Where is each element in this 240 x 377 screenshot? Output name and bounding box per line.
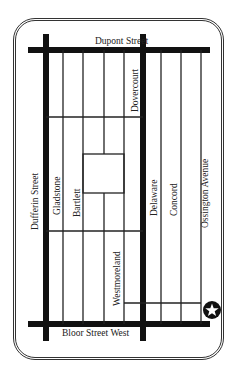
- label-dovercourt: Dovercourt: [131, 69, 141, 112]
- road-dufferin: [43, 34, 49, 341]
- label-dupont: Dupont Street: [95, 37, 148, 47]
- road-dupont: [28, 47, 210, 53]
- label-delaware: Delaware: [150, 180, 160, 216]
- label-dufferin: Dufferin Street: [31, 173, 41, 230]
- label-bartlett: Bartlett: [73, 189, 83, 218]
- label-gladstone: Gladstone: [53, 176, 63, 215]
- road-dovercourt: [140, 34, 146, 341]
- block-box: [83, 154, 124, 193]
- label-westmoreland: Westmoreland: [113, 251, 123, 306]
- label-concord: Concord: [170, 183, 180, 216]
- label-ossington: Ossington Avenue: [201, 159, 211, 228]
- star-icon: [203, 301, 221, 319]
- road-bloor: [28, 321, 210, 327]
- label-bloor: Bloor Street West: [62, 329, 129, 339]
